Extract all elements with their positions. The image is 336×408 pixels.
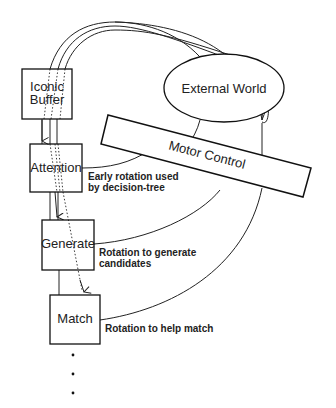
annotation-match-line1: Rotation to help match [105,323,213,334]
annotation-generate-line2: candidates [99,258,152,269]
continuation-dots [72,354,75,395]
iconic-buffer-label-line2: Buffer [30,92,65,107]
annotation-match: Rotation to help match [105,323,213,334]
box-attention: Attention [30,144,82,192]
generate-label: Generate [41,236,95,251]
annotation-attention-line2: by decision-tree [88,182,165,193]
cognitive-architecture-diagram: External World Motor Control Iconic Buff… [0,0,336,408]
annotation-generate: Rotation to generate candidates [99,247,197,269]
external-world-label: External World [181,81,266,96]
match-label: Match [57,311,92,326]
attention-label: Attention [30,160,81,175]
annotation-generate-line1: Rotation to generate [99,247,197,258]
external-world: External World [164,54,284,122]
box-generate: Generate [41,220,95,270]
annotation-attention: Early rotation used by decision-tree [88,171,179,193]
box-iconic-buffer: Iconic Buffer [22,69,72,119]
annotation-attention-line1: Early rotation used [88,171,179,182]
box-match: Match [50,295,100,344]
